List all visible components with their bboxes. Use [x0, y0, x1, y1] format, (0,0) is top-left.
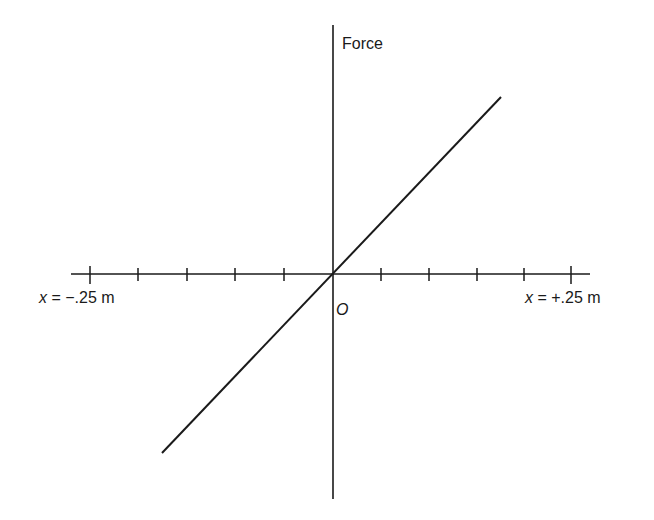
x-right-label: x = +.25 m [525, 290, 601, 306]
force-graph [0, 0, 654, 520]
x-left-var: x [39, 289, 47, 306]
x-left-label: x = −.25 m [39, 290, 115, 306]
force-axis-label: Force [342, 36, 383, 52]
origin-label: O [336, 302, 348, 318]
x-right-value: = +.25 m [533, 289, 601, 306]
x-left-value: = −.25 m [47, 289, 115, 306]
force-line [162, 97, 501, 453]
x-right-var: x [525, 289, 533, 306]
